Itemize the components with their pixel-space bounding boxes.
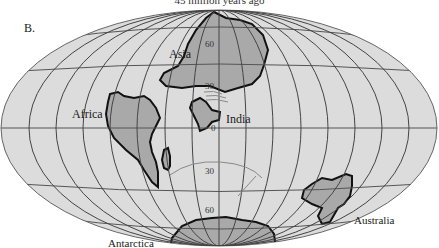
latitude-label-60s: 60 (205, 205, 215, 215)
latitude-label-30s: 30 (205, 166, 215, 176)
latitude-label-0: 0 (211, 123, 216, 133)
india-label: India (226, 112, 251, 126)
asia-label: Asia (169, 47, 192, 61)
world-map: 60 30 0 30 60 Asia Africa India Australi… (0, 0, 439, 248)
australia-label: Australia (354, 214, 394, 226)
antarctica-label: Antarctica (108, 237, 154, 248)
latitude-label-60n: 60 (205, 39, 215, 49)
latitude-label-30n: 30 (205, 81, 215, 91)
africa-label: Africa (72, 107, 103, 121)
